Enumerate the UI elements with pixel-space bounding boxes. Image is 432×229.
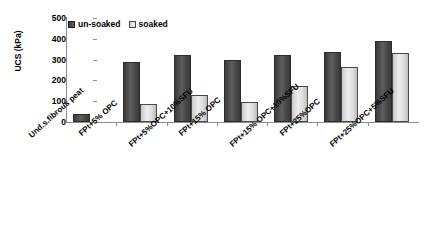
bar-soaked <box>341 67 358 122</box>
x-axis-tick-mark <box>167 122 168 126</box>
bar-soaked <box>392 53 409 122</box>
bar-chart: UCS (kPa) 5004003002001000 un-soaked soa… <box>0 0 432 229</box>
chart-legend: un-soaked soaked <box>68 19 168 29</box>
legend-label-soaked: soaked <box>139 19 168 29</box>
y-axis-tick-label: 200 <box>36 76 66 85</box>
legend-label-un-soaked: un-soaked <box>78 19 121 29</box>
bar-un-soaked <box>324 52 341 122</box>
bar-group <box>116 18 166 122</box>
x-axis-line <box>66 122 419 123</box>
x-axis-tick-mark <box>317 122 318 126</box>
y-axis-title: UCS (kPa) <box>13 11 23 91</box>
x-axis-tick-mark <box>116 122 117 126</box>
x-axis-tick-mark <box>217 122 218 126</box>
bar-un-soaked <box>375 41 392 122</box>
legend-swatch-un-soaked <box>68 21 75 28</box>
legend-item-un-soaked: un-soaked <box>68 19 121 29</box>
y-axis-tick-label: 500 <box>36 14 66 23</box>
legend-item-soaked: soaked <box>129 19 168 29</box>
x-axis-tick-mark <box>368 122 369 126</box>
bar-un-soaked <box>224 60 241 122</box>
x-axis-tick-mark <box>267 122 268 126</box>
y-axis-tick-label: 300 <box>36 56 66 65</box>
y-axis-tick-label: 400 <box>36 35 66 44</box>
legend-swatch-soaked <box>129 21 136 28</box>
bar-group <box>317 18 367 122</box>
bar-group <box>217 18 267 122</box>
bar-un-soaked <box>123 62 140 122</box>
bar-groups <box>66 18 418 122</box>
